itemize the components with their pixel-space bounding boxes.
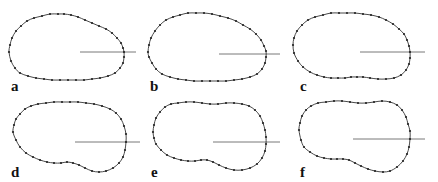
sample-point xyxy=(166,154,168,156)
sample-point xyxy=(15,30,17,32)
sample-point xyxy=(259,115,261,117)
sample-point xyxy=(172,16,174,18)
sample-point xyxy=(402,160,404,162)
sample-point xyxy=(297,60,299,62)
sample-point xyxy=(187,160,189,162)
sample-point xyxy=(385,19,387,21)
sample-point xyxy=(342,158,344,160)
sample-point xyxy=(24,108,26,110)
sample-point xyxy=(307,19,309,21)
sample-point xyxy=(203,12,205,14)
sample-point xyxy=(75,79,77,81)
sample-point xyxy=(396,104,398,106)
sample-point xyxy=(51,79,53,81)
sample-point xyxy=(60,162,62,164)
sample-point xyxy=(26,20,28,22)
sample-point xyxy=(392,23,394,25)
sample-point xyxy=(316,74,318,76)
contour-panel-d xyxy=(12,101,140,173)
sample-point xyxy=(46,161,48,163)
sample-point xyxy=(362,13,364,15)
contour-outline xyxy=(153,102,266,170)
sample-point xyxy=(53,101,55,103)
contour-panel-b xyxy=(147,12,280,82)
sample-point xyxy=(193,101,195,103)
sample-point xyxy=(310,105,312,107)
sample-point xyxy=(344,77,346,79)
sample-point xyxy=(93,103,95,105)
sample-point xyxy=(91,22,93,24)
sample-point xyxy=(406,39,408,41)
sample-point xyxy=(194,160,196,162)
sample-point xyxy=(159,24,161,26)
sample-point xyxy=(151,62,153,64)
sample-point xyxy=(378,16,380,18)
sample-point xyxy=(249,76,251,78)
sample-point xyxy=(32,156,34,158)
sample-point xyxy=(185,79,187,81)
sample-point xyxy=(316,155,318,157)
sample-point xyxy=(405,69,407,71)
contour-outline xyxy=(9,14,124,80)
sample-point xyxy=(99,77,101,79)
sample-point xyxy=(115,112,117,114)
sample-point xyxy=(120,118,122,120)
sample-point xyxy=(155,117,157,119)
sample-point xyxy=(13,124,15,126)
sample-point xyxy=(122,62,124,64)
sample-point xyxy=(116,37,118,39)
sample-point xyxy=(248,105,250,107)
sample-point xyxy=(20,25,22,27)
sample-point xyxy=(201,80,203,82)
sample-point xyxy=(70,14,72,16)
sample-point xyxy=(98,171,100,173)
sample-point xyxy=(362,76,364,78)
sample-point xyxy=(78,164,80,166)
sample-point xyxy=(296,30,298,32)
sample-point xyxy=(15,139,17,141)
sample-point xyxy=(41,15,43,17)
sample-point xyxy=(120,42,122,44)
sample-point xyxy=(396,166,398,168)
sample-point xyxy=(200,159,202,161)
sample-point xyxy=(309,71,311,73)
sample-point xyxy=(293,52,295,54)
sample-point xyxy=(330,158,332,160)
sample-point xyxy=(330,12,332,14)
sample-point xyxy=(219,15,221,17)
sample-point xyxy=(212,161,214,163)
panel-label-a: a xyxy=(11,79,19,94)
sample-point xyxy=(401,109,403,111)
sample-point xyxy=(155,143,157,145)
sample-point xyxy=(193,80,195,82)
sample-point xyxy=(169,76,171,78)
sample-point xyxy=(299,122,301,124)
sample-point xyxy=(405,116,407,118)
sample-point xyxy=(370,14,372,16)
sample-point xyxy=(241,78,243,80)
sample-point xyxy=(407,123,409,125)
contour-panel-a xyxy=(8,13,136,81)
sample-point xyxy=(260,39,262,41)
sample-point xyxy=(333,100,335,102)
sample-point xyxy=(322,14,324,16)
sample-point xyxy=(249,167,251,169)
sample-point xyxy=(356,76,358,78)
sample-point xyxy=(201,102,203,104)
sample-point xyxy=(409,138,411,140)
sample-point xyxy=(125,141,127,143)
sample-point xyxy=(409,57,411,59)
sample-point xyxy=(233,169,235,171)
sample-point xyxy=(211,13,213,15)
sample-point xyxy=(400,74,402,76)
sample-point xyxy=(91,78,93,80)
sample-point xyxy=(227,17,229,19)
sample-point xyxy=(177,102,179,104)
sample-point xyxy=(265,136,267,138)
sample-point xyxy=(298,129,300,131)
sample-point xyxy=(217,80,219,82)
sample-point xyxy=(381,100,383,102)
sample-point xyxy=(155,68,157,70)
sample-point xyxy=(153,137,155,139)
sample-point xyxy=(263,45,265,47)
